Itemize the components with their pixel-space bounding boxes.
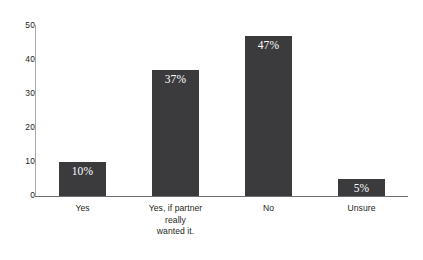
x-axis-category-label-line: wanted it. [129, 226, 222, 238]
x-axis-category-label: No [222, 203, 315, 215]
x-axis-category-label: Yes, if partnerreallywanted it. [129, 203, 222, 238]
x-axis-category-label: Unsure [315, 203, 408, 215]
bar-value-label: 5% [354, 179, 370, 195]
y-axis-tick-mark [32, 60, 35, 61]
x-axis-category-label: Yes [36, 203, 129, 215]
x-axis-category-label-line: Yes, if partner [129, 203, 222, 215]
plot-area: 10%37%47%5% [36, 26, 408, 196]
y-axis-tick-mark [32, 128, 35, 129]
bar[interactable]: 47% [245, 36, 292, 196]
bar-value-label: 10% [72, 162, 94, 178]
y-axis-tick-mark [32, 196, 35, 197]
bar-value-label: 47% [258, 36, 280, 52]
bar-chart: 01020304050 10%37%47%5% YesYes, if partn… [0, 0, 423, 260]
y-axis-tick-mark [32, 162, 35, 163]
bar-value-label: 37% [165, 70, 187, 86]
x-axis-category-label-line: Unsure [315, 203, 408, 215]
y-axis-tick-mark [32, 26, 35, 27]
x-axis-category-label-line: No [222, 203, 315, 215]
bar[interactable]: 37% [152, 70, 199, 196]
x-axis-category-label-line: really [129, 215, 222, 227]
x-axis-line [35, 196, 408, 197]
x-axis-category-label-line: Yes [36, 203, 129, 215]
y-axis-tick-mark [32, 94, 35, 95]
bar[interactable]: 10% [59, 162, 106, 196]
bar[interactable]: 5% [338, 179, 385, 196]
